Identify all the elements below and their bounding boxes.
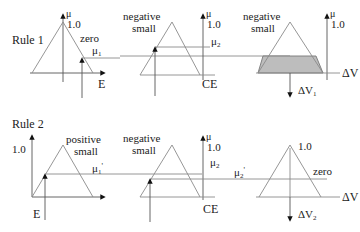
mu1-label: μ1 [92, 44, 102, 58]
peak-label: 1.0 [331, 18, 345, 30]
rule-2-input-ce-panel: negative small μ 1.0 μ2 μ2' CE [123, 131, 290, 222]
peak-label: 1.0 [207, 141, 221, 153]
fuzzy-rules-diagram: Rule 1 μ 1.0 zero E μ1 negative small μ [0, 0, 360, 232]
set-label-line1: negative [123, 132, 160, 144]
mu2-prime-label: μ2' [234, 166, 245, 180]
rule-1: Rule 1 μ 1.0 zero E μ1 negative small μ [12, 8, 359, 98]
set-label-line2: small [74, 145, 98, 157]
set-label-line1: positive [66, 133, 101, 145]
peak-label: 1.0 [12, 143, 26, 155]
e-axis-label: E [98, 77, 105, 91]
set-label-line2: small [251, 22, 275, 34]
ce-axis-label: CE [203, 202, 218, 216]
dv2-label: ΔV2 [298, 208, 317, 222]
set-label-zero: zero [80, 32, 99, 44]
rule-2-input-e-panel: 1.0 positive small μ1' E [12, 133, 120, 221]
dv-axis-label: ΔV [342, 66, 359, 80]
dv1-label: ΔV1 [298, 84, 317, 98]
rule-1-input-ce-panel: negative small μ 1.0 μ2 CE [123, 8, 221, 96]
e-axis-label: E [33, 207, 40, 221]
ce-axis-label: CE [202, 77, 217, 91]
rule-2-output-panel: 1.0 zero ΔV ΔV2 [256, 140, 359, 222]
dv-axis-label: ΔV [342, 190, 359, 204]
set-label-line2: small [132, 22, 156, 34]
rule-1-label: Rule 1 [12, 33, 44, 47]
set-label-zero: zero [313, 165, 332, 177]
rule-1-input-e-panel: μ 1.0 zero E μ1 [30, 8, 120, 98]
set-label-line2: small [132, 144, 156, 156]
peak-label: 1.0 [298, 140, 312, 152]
zero-membership-triangle [32, 22, 93, 73]
peak-label: 1.0 [207, 18, 221, 30]
mu2-label: μ2 [211, 35, 221, 49]
rule-2: Rule 2 1.0 positive small μ1' E negative… [12, 117, 359, 222]
rule-1-output-panel: negative small μ 1.0 ΔV ΔV1 [243, 8, 359, 98]
peak-label: 1.0 [67, 18, 81, 30]
set-label-line1: negative [123, 10, 160, 22]
set-label-line1: negative [243, 10, 280, 22]
rule-2-label: Rule 2 [12, 117, 44, 131]
mu2-label: μ2 [210, 156, 220, 170]
